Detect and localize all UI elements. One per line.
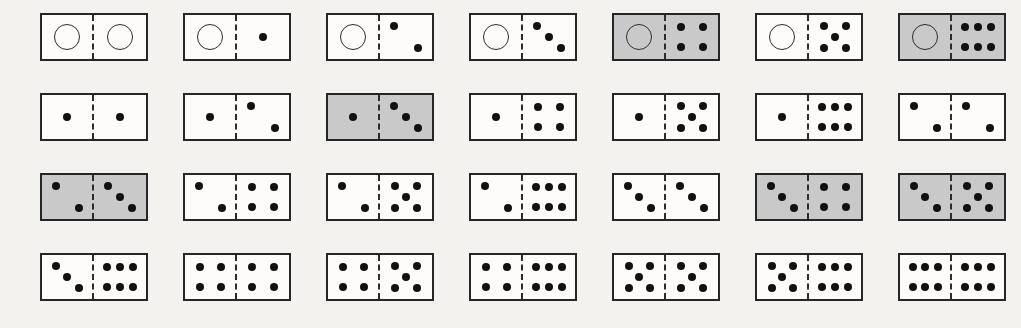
pip-dot — [75, 204, 83, 212]
pip-dot — [217, 263, 225, 271]
pip-dot — [699, 124, 707, 132]
pip-dot — [985, 204, 993, 212]
pip-dot — [963, 182, 971, 190]
domino-tile[interactable] — [755, 253, 863, 301]
domino-tile[interactable] — [469, 173, 577, 221]
pip-dot — [218, 204, 226, 212]
domino-tile[interactable] — [326, 13, 434, 61]
pip-dot — [533, 22, 541, 30]
pip-dot — [217, 283, 225, 291]
domino-tile[interactable] — [755, 173, 863, 221]
domino-half-left — [614, 15, 666, 59]
domino-tile[interactable] — [755, 13, 863, 61]
domino-tile[interactable] — [326, 173, 434, 221]
pip-dot — [624, 182, 632, 190]
pip-dot — [52, 182, 60, 190]
domino-half-right — [523, 95, 575, 139]
pip-dot — [556, 123, 564, 131]
pip-dot — [556, 103, 564, 111]
pip-dot — [402, 273, 410, 281]
pip-dot — [963, 204, 971, 212]
domino-tile[interactable] — [183, 253, 291, 301]
domino-tile[interactable] — [612, 93, 720, 141]
domino-half-right — [380, 15, 432, 59]
domino-half-left — [614, 255, 666, 299]
domino-tile[interactable] — [40, 173, 148, 221]
domino-tile[interactable] — [612, 173, 720, 221]
pip-dot — [481, 182, 489, 190]
domino-tile[interactable] — [469, 253, 577, 301]
pip-dot — [818, 263, 826, 271]
pip-dot — [625, 284, 633, 292]
pip-dot — [699, 102, 707, 110]
pip-dot — [974, 23, 982, 31]
pip-dot — [820, 44, 828, 52]
zero-circle-icon — [197, 24, 223, 50]
domino-tile[interactable] — [469, 13, 577, 61]
pip-dot — [247, 102, 255, 110]
pip-dot — [987, 43, 995, 51]
pip-dot — [391, 284, 399, 292]
pip-dot — [482, 283, 490, 291]
pip-dot — [635, 113, 643, 121]
pip-dot — [818, 283, 826, 291]
pip-dot — [534, 103, 542, 111]
pip-dot — [104, 182, 112, 190]
pip-dot — [413, 284, 421, 292]
pip-dot — [987, 283, 995, 291]
domino-tile[interactable] — [898, 253, 1006, 301]
pip-dot — [842, 183, 850, 191]
pip-dot — [789, 262, 797, 270]
domino-half-right — [952, 255, 1004, 299]
pip-dot — [558, 203, 566, 211]
domino-half-left — [757, 255, 809, 299]
domino-tile[interactable] — [183, 173, 291, 221]
domino-tile[interactable] — [469, 93, 577, 141]
pip-dot — [129, 283, 137, 291]
pip-dot — [390, 22, 398, 30]
pip-dot — [360, 283, 368, 291]
pip-dot — [270, 203, 278, 211]
pip-dot — [196, 263, 204, 271]
pip-dot — [271, 124, 279, 132]
domino-tile[interactable] — [898, 13, 1006, 61]
pip-dot — [699, 284, 707, 292]
domino-tile[interactable] — [183, 13, 291, 61]
zero-circle-icon — [769, 24, 795, 50]
domino-half-left — [328, 15, 380, 59]
domino-half-left — [42, 175, 94, 219]
domino-tile[interactable] — [326, 253, 434, 301]
pip-dot — [195, 182, 203, 190]
pip-dot — [545, 203, 553, 211]
pip-dot — [677, 124, 685, 132]
domino-tile[interactable] — [898, 93, 1006, 141]
pip-dot — [910, 102, 918, 110]
domino-tile[interactable] — [326, 93, 434, 141]
domino-tile[interactable] — [755, 93, 863, 141]
domino-tile[interactable] — [40, 253, 148, 301]
domino-tile[interactable] — [612, 253, 720, 301]
pip-dot — [820, 22, 828, 30]
domino-half-left — [900, 175, 952, 219]
domino-half-right — [237, 175, 289, 219]
pip-dot — [558, 263, 566, 271]
domino-tile[interactable] — [40, 13, 148, 61]
pip-dot — [842, 44, 850, 52]
pip-dot — [987, 263, 995, 271]
pip-dot — [63, 113, 71, 121]
pip-dot — [248, 203, 256, 211]
domino-half-right — [380, 175, 432, 219]
domino-half-left — [757, 95, 809, 139]
domino-tile[interactable] — [40, 93, 148, 141]
domino-tile[interactable] — [898, 173, 1006, 221]
pip-dot — [414, 124, 422, 132]
domino-half-right — [523, 255, 575, 299]
pip-dot — [625, 262, 633, 270]
domino-half-right — [809, 255, 861, 299]
zero-circle-icon — [626, 24, 652, 50]
pip-dot — [909, 283, 917, 291]
domino-half-left — [328, 255, 380, 299]
domino-tile[interactable] — [612, 13, 720, 61]
domino-tile[interactable] — [183, 93, 291, 141]
pip-dot — [768, 284, 776, 292]
